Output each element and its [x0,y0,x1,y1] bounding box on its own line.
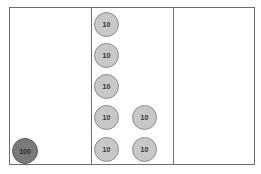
ten-chip[interactable]: 10 [94,12,119,37]
ten-chip[interactable]: 10 [94,137,119,162]
ten-chip[interactable]: 10 [132,137,157,162]
column-divider-1 [91,7,92,165]
ten-chip[interactable]: 10 [94,74,119,99]
ten-chip[interactable]: 10 [94,43,119,68]
ten-chip[interactable]: 10 [94,105,119,130]
place-value-chart-frame [9,7,255,165]
column-divider-2 [173,7,174,165]
hundred-chip[interactable]: 100 [12,138,38,164]
ten-chip[interactable]: 10 [132,105,157,130]
